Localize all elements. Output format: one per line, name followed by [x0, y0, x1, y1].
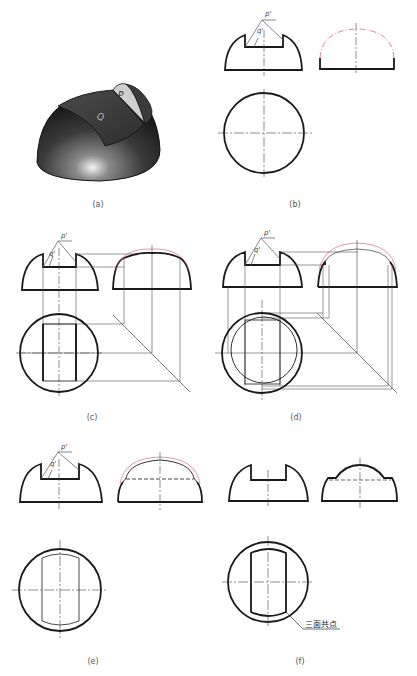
caption-f: (f)	[295, 657, 304, 666]
side-view-d	[318, 262, 397, 287]
face-q-label: Q	[97, 112, 104, 122]
q-prime-e: q'	[50, 460, 56, 468]
face-p-label: P	[118, 90, 123, 100]
p-prime-e: p'	[61, 443, 67, 451]
front-view-e	[20, 464, 102, 502]
p-prime-c: p'	[61, 232, 67, 240]
panel-a-3d-view	[37, 84, 160, 181]
front-view-c	[22, 254, 98, 290]
hemisphere-notch-diagram	[0, 0, 417, 676]
panel-b	[218, 20, 394, 177]
side-view-f	[322, 465, 397, 501]
top-view-f-slot	[251, 549, 286, 616]
top-view-e-slot	[42, 554, 79, 625]
side-view-b-base	[320, 58, 394, 69]
caption-a: (a)	[92, 200, 103, 209]
q-prime-c: q'	[49, 250, 55, 258]
panel-c	[16, 241, 191, 398]
front-view-b	[225, 35, 302, 70]
q-prime-b: q'	[257, 27, 263, 35]
three-surface-point-note: 三面共点	[305, 618, 337, 629]
caption-d: (d)	[290, 413, 301, 422]
panel-d	[215, 238, 397, 400]
caption-b: (b)	[289, 200, 300, 209]
caption-e: (e)	[87, 657, 98, 666]
p-prime-b: p'	[265, 10, 271, 18]
front-view-d	[223, 252, 302, 287]
panel-e	[12, 452, 202, 638]
side-view-b-red-arc	[320, 29, 394, 58]
caption-c: (c)	[87, 413, 98, 422]
p-prime-d: p'	[264, 229, 270, 237]
q-prime-d: q'	[254, 246, 260, 254]
panel-f	[222, 458, 397, 629]
front-view-f	[229, 465, 308, 501]
